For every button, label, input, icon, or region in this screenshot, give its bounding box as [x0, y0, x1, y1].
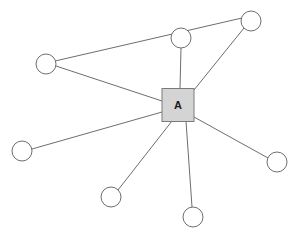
- hub-layer: A: [162, 89, 194, 122]
- node-n1[interactable]: [171, 28, 191, 48]
- edge-hub-n7: [194, 117, 268, 158]
- hub-node-label: A: [174, 99, 182, 111]
- edge-hub-n2: [194, 28, 244, 90]
- node-n5[interactable]: [101, 187, 121, 207]
- edge-hub-n4: [32, 112, 162, 149]
- node-n4[interactable]: [12, 141, 32, 161]
- edge-hub-n6: [186, 121, 192, 207]
- node-n7[interactable]: [267, 152, 287, 172]
- edge-hub-n1: [180, 48, 181, 88]
- edge-hub-n3: [56, 66, 162, 101]
- node-n3[interactable]: [36, 54, 56, 74]
- nodes-layer: [12, 11, 287, 227]
- network-graph: A: [0, 0, 299, 238]
- node-n2[interactable]: [241, 11, 261, 31]
- node-n6[interactable]: [183, 207, 203, 227]
- diagram-canvas: A: [0, 0, 299, 238]
- edge-hub-n5: [118, 121, 172, 190]
- edge-n3-n2: [55, 18, 242, 61]
- edges-layer: [32, 18, 268, 207]
